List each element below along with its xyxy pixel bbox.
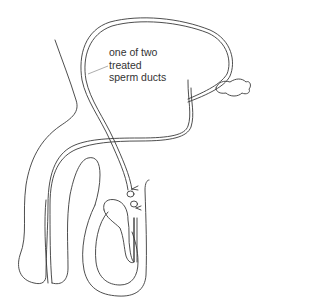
vas-deferens-outer [81,18,233,190]
epididymis [104,199,134,262]
epididymis-inner [104,210,134,263]
label-line-2: treated [109,59,166,72]
clip-end-lower [131,201,138,207]
testis [96,212,139,285]
seminal-vesicle [216,79,250,96]
clip-end-upper [127,191,134,197]
label-line-1: one of two [109,46,166,59]
penis-lobe [52,158,100,284]
label-line-3: sperm ducts [109,71,166,84]
scrotum-outer [83,180,149,296]
vas-lower [134,218,137,262]
duct-label: one of two treated sperm ducts [109,46,166,84]
label-leader-line [88,66,108,74]
